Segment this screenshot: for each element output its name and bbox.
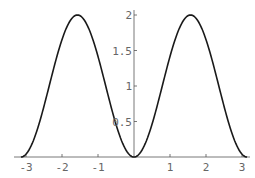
x-tick-label: 1 [167, 161, 174, 174]
y-tick-label: 2 [125, 9, 132, 22]
x-tick-label: 2 [203, 161, 210, 174]
x-tick-label: -1 [91, 161, 104, 174]
x-tick-label: -3 [19, 161, 32, 174]
y-tick-label: 1.5 [112, 45, 132, 58]
y-tick-label: 1 [125, 80, 132, 93]
plot: -3-2-11230.511.52 [0, 0, 255, 178]
x-tick-label: 3 [239, 161, 246, 174]
x-tick-label: -2 [55, 161, 68, 174]
tick-labels: -3-2-11230.511.52 [19, 9, 245, 174]
y-tick-label: 0.5 [112, 116, 132, 129]
